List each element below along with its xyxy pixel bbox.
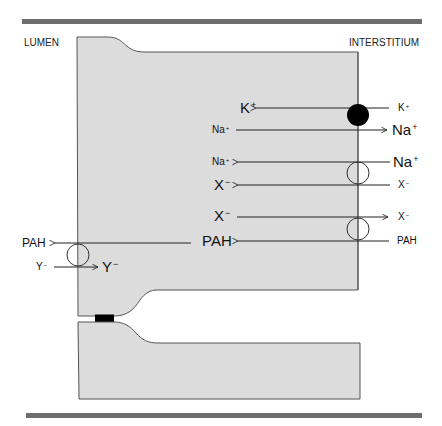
x-out-outside-label: X− [398, 212, 409, 222]
na-in-outside-label: Na+ [393, 154, 418, 169]
tight-junction [95, 315, 114, 323]
na-out-outside-label: Na+ [392, 122, 417, 137]
x-out-inside-label: X− [214, 208, 230, 223]
lower-cell [78, 322, 360, 399]
na-k-pump [347, 104, 369, 126]
x-in-outside-label: X− [398, 180, 409, 190]
bottom-border-bar [26, 413, 422, 418]
interstitium-label: INTERSTITIUM [349, 38, 419, 48]
k-inside-label: K+ [240, 100, 256, 115]
top-border-bar [22, 19, 422, 24]
na-in-inside-label: Na+ [212, 157, 229, 167]
apical-pah-lumen-label: PAH [22, 237, 46, 249]
k-outside-label: K+ [398, 103, 409, 113]
apical-y-lumen-label: Y− [36, 262, 47, 272]
lumen-label: LUMEN [24, 38, 59, 48]
x-in-inside-label: X− [214, 177, 230, 192]
na-out-inside-label: Na+ [212, 125, 229, 135]
pah-in-outside-label: PAH [397, 236, 417, 246]
apical-y-cell-label: Y− [102, 259, 118, 274]
pah-in-inside-label: PAH [202, 233, 232, 248]
